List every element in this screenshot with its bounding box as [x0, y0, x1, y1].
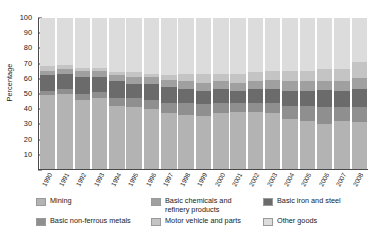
bar-segment [334, 81, 350, 90]
bar-segment [334, 121, 350, 169]
bar-segment [334, 69, 350, 81]
legend-item[interactable]: Motor vehicle and parts [151, 217, 241, 226]
bar-column[interactable] [178, 18, 194, 169]
bar-segment [92, 98, 108, 169]
bar-segment [40, 95, 56, 169]
legend-item[interactable]: Other goods [263, 217, 317, 226]
bar-segment [196, 18, 212, 74]
bar-segment [300, 106, 316, 121]
x-label-cell: 1996 [143, 170, 160, 196]
bar-segment [352, 62, 368, 79]
legend-swatch-motor-vehicle [151, 218, 161, 226]
bar-segment [213, 81, 229, 89]
x-tick-label: 1990 [41, 172, 53, 188]
bar-segment [282, 18, 298, 71]
x-label-cell: 1998 [178, 170, 195, 196]
bar-column[interactable] [352, 18, 368, 169]
legend-item[interactable]: Basic iron and steel [263, 197, 341, 206]
bar-segment [282, 106, 298, 120]
bar-segment [178, 81, 194, 89]
bar-segment [230, 83, 246, 91]
bar-segment [144, 84, 160, 99]
bar-column[interactable] [92, 18, 108, 169]
bar-column[interactable] [230, 18, 246, 169]
bar-column[interactable] [265, 18, 281, 169]
x-label-cell: 2001 [229, 170, 246, 196]
bar-column[interactable] [126, 18, 142, 169]
x-label-cell: 2003 [264, 170, 281, 196]
bar-segment [317, 81, 333, 90]
bar-segment [161, 80, 177, 88]
bar-segment [126, 98, 142, 107]
bar-column[interactable] [75, 18, 91, 169]
bar-segment [265, 18, 281, 71]
bar-segment [57, 18, 73, 65]
x-tick-label: 2008 [353, 172, 365, 188]
bar-segment [126, 107, 142, 169]
bar-column[interactable] [57, 18, 73, 169]
bar-column[interactable] [248, 18, 264, 169]
bar-segment [196, 91, 212, 105]
bar-segment [265, 71, 281, 80]
bar-column[interactable] [144, 18, 160, 169]
y-tick-label: 60 [10, 75, 32, 82]
bar-segment [57, 74, 73, 89]
bar-segment [109, 98, 125, 106]
stacked-bar-chart: Percentage 102030405060708090100 1990199… [0, 0, 370, 239]
bar-segment [161, 87, 177, 102]
y-tick-label: 90 [10, 29, 32, 36]
bar-segment [248, 81, 264, 89]
x-tick-label: 2003 [266, 172, 278, 188]
bar-segment [75, 100, 91, 169]
bar-column[interactable] [109, 18, 125, 169]
bar-segment [126, 18, 142, 72]
x-tick-label: 2002 [249, 172, 261, 188]
legend-item[interactable]: Basic chemicals and refinery products [151, 197, 232, 214]
bar-segment [282, 119, 298, 169]
bar-column[interactable] [196, 18, 212, 169]
bar-column[interactable] [213, 18, 229, 169]
bar-segment [248, 89, 264, 103]
bar-segment [248, 112, 264, 169]
bar-column[interactable] [334, 18, 350, 169]
bar-segment [109, 106, 125, 169]
legend-swatch-other-goods [263, 218, 273, 226]
x-label-cell: 1997 [160, 170, 177, 196]
legend-item-label: Other goods [277, 217, 317, 226]
bar-segment [161, 18, 177, 75]
legend-row-bottom: Basic non-ferrous metalsMotor vehicle an… [0, 217, 370, 237]
bar-segment [265, 89, 281, 103]
bar-column[interactable] [282, 18, 298, 169]
legend-swatch-mining [36, 198, 46, 206]
x-tick-label: 1995 [128, 172, 140, 188]
bar-segment [196, 74, 212, 83]
bar-column[interactable] [317, 18, 333, 169]
bar-column[interactable] [300, 18, 316, 169]
bar-segment [317, 90, 333, 107]
x-label-cell: 2005 [299, 170, 316, 196]
x-label-cell: 1994 [108, 170, 125, 196]
y-tick-label: 50 [10, 90, 32, 97]
bar-segment [282, 91, 298, 106]
bar-segment [352, 107, 368, 122]
bar-segment [161, 103, 177, 114]
bar-segment [230, 18, 246, 74]
legend-item[interactable]: Mining [36, 197, 72, 206]
y-tick-label: 30 [10, 121, 32, 128]
bar-segment [126, 77, 142, 85]
bar-segment [213, 89, 229, 103]
bar-segment [178, 103, 194, 115]
legend-row-top: MiningBasic chemicals and refinery produ… [0, 197, 370, 217]
bar-segment [248, 103, 264, 112]
bar-segment [161, 113, 177, 169]
legend-item[interactable]: Basic non-ferrous metals [36, 217, 131, 226]
bar-segment [230, 103, 246, 112]
bar-segment [300, 18, 316, 71]
bar-column[interactable] [161, 18, 177, 169]
legend-swatch-basic-iron-steel [263, 198, 273, 206]
x-label-cell: 1990 [39, 170, 56, 196]
x-tick-label: 2000 [214, 172, 226, 188]
bar-segment [213, 103, 229, 114]
bar-column[interactable] [40, 18, 56, 169]
bar-segment [196, 104, 212, 116]
